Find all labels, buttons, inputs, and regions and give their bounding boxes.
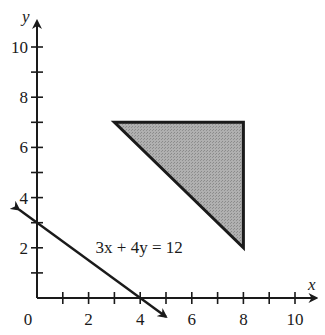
y-tick-label: 2 (20, 239, 29, 258)
y-tick-label: 10 (11, 38, 28, 57)
line-3x-4y-12 (19, 210, 166, 317)
x-axis-label: x (307, 275, 316, 294)
x-tick-label: 0 (24, 310, 33, 329)
x-tick-label: 10 (287, 310, 304, 329)
x-tick-label: 2 (84, 310, 93, 329)
x-tick-label: 4 (136, 310, 145, 329)
y-axis-label: y (20, 7, 30, 26)
y-tick-label: 4 (20, 189, 29, 208)
equation-label: 3x + 4y = 12 (96, 238, 183, 257)
y-tick-label: 6 (20, 138, 29, 157)
x-tick-label: 6 (188, 310, 197, 329)
shaded-triangle (114, 122, 243, 248)
plot-area: 0246810246810 (11, 21, 316, 329)
y-tick-label: 8 (20, 88, 29, 107)
x-tick-label: 8 (239, 310, 248, 329)
chart: 0246810246810 y x 3x + 4y = 12 (0, 0, 325, 335)
